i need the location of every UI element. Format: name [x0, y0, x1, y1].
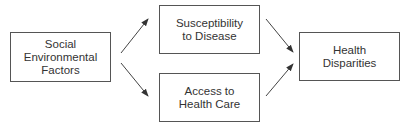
- arrow-social-to-access: [121, 63, 148, 96]
- arrow-susceptibility-to-disparities: [266, 19, 293, 52]
- node-susceptibility-to-disease: Susceptibility to Disease: [159, 5, 260, 54]
- node-access-to-health-care: Access to Health Care: [159, 73, 260, 122]
- node-social-environmental-factors: Social Environmental Factors: [10, 32, 111, 82]
- node-label: Access to Health Care: [179, 85, 240, 111]
- arrow-social-to-susceptibility: [121, 19, 148, 53]
- node-label: Health Disparities: [323, 44, 377, 70]
- node-health-disparities: Health Disparities: [299, 32, 400, 81]
- node-label: Social Environmental Factors: [24, 38, 98, 77]
- node-label: Susceptibility to Disease: [176, 17, 243, 43]
- arrow-access-to-disparities: [266, 64, 293, 96]
